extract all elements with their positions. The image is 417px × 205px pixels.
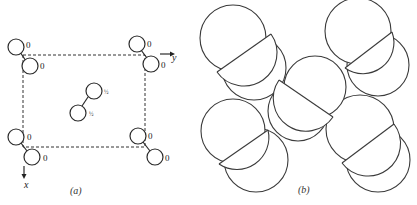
atom bbox=[70, 105, 86, 121]
height-label: 0 bbox=[43, 153, 48, 163]
space-filling-molecule-bottom-right bbox=[326, 95, 410, 192]
height-label: 0 bbox=[26, 40, 31, 50]
height-label: 0 bbox=[147, 39, 152, 49]
atom bbox=[86, 83, 102, 99]
atom bbox=[129, 36, 145, 52]
height-label: 0 bbox=[40, 61, 45, 71]
molecule-center: ½ ½ bbox=[70, 83, 109, 121]
atom bbox=[24, 149, 40, 165]
figure: y x 0 0 0 0 ½ ½ bbox=[0, 0, 417, 205]
atom bbox=[22, 58, 38, 74]
height-label: ½ bbox=[89, 111, 94, 117]
atom bbox=[8, 39, 24, 55]
y-axis-label: y bbox=[171, 52, 177, 63]
x-axis-arrow-icon bbox=[22, 166, 27, 179]
height-label: 0 bbox=[27, 132, 32, 142]
height-label: 0 bbox=[165, 153, 170, 163]
height-label: 0 bbox=[161, 60, 166, 70]
height-label: 0 bbox=[148, 131, 153, 141]
atom bbox=[147, 149, 163, 165]
panel-a-caption: (a) bbox=[70, 185, 82, 197]
panel-a: y x 0 0 0 0 ½ ½ bbox=[8, 36, 177, 197]
x-axis-label: x bbox=[23, 179, 29, 190]
atom bbox=[130, 128, 146, 144]
panel-b: (b) bbox=[200, 0, 410, 196]
atom bbox=[143, 56, 159, 72]
molecule-top-left: 0 0 bbox=[8, 39, 45, 74]
space-filling-molecule-top-left bbox=[200, 5, 286, 100]
atom bbox=[8, 129, 24, 145]
panel-b-caption: (b) bbox=[298, 184, 310, 196]
height-label: ½ bbox=[104, 89, 109, 95]
